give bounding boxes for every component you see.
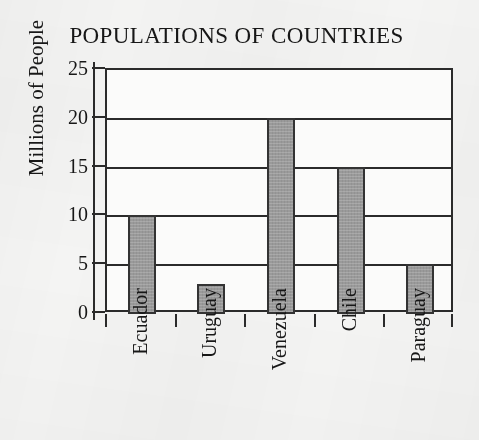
y-axis-tick-label: 25 [44, 58, 88, 78]
x-axis-tick-mark [314, 314, 316, 327]
bar [267, 118, 295, 314]
x-axis-tick-label: Paraguay [406, 288, 430, 396]
x-axis-tick-mark [451, 314, 453, 327]
x-axis-tick-mark [244, 314, 246, 327]
x-axis-tick-mark [175, 314, 177, 327]
x-axis-tick-label: Uruguay [197, 288, 221, 396]
x-axis-category-uruguay: Uruguay [174, 330, 244, 438]
x-axis-category-paraguay: Paraguay [383, 330, 453, 438]
x-axis-category-ecuador: Ecuador [105, 330, 175, 438]
y-axis-tick-label: 0 [44, 302, 88, 322]
y-axis-tick-mark [92, 165, 105, 167]
x-axis-tick-label: Venezuela [267, 288, 291, 396]
x-axis-tick-label: Ecuador [128, 288, 152, 396]
y-axis-tick-mark [92, 67, 105, 69]
x-axis-category-venezuela: Venezuela [244, 330, 314, 438]
x-axis-tick-mark [105, 314, 107, 327]
x-axis-category-chile: Chile [314, 330, 384, 438]
x-axis-tick-mark [383, 314, 385, 327]
y-axis-tick-mark [92, 213, 105, 215]
y-axis-tick-label: 20 [44, 107, 88, 127]
y-axis-tick-label: 10 [44, 204, 88, 224]
plot-area [105, 68, 453, 312]
x-axis-tick-label: Chile [337, 288, 361, 396]
x-axis-label-group: EcuadorUruguayVenezuelaChileParaguay [105, 330, 453, 438]
y-axis-tick-mark [92, 262, 105, 264]
chart-page: POPULATIONS OF COUNTRIES Millions of Peo… [0, 0, 479, 440]
y-axis-tick-mark [92, 116, 105, 118]
y-axis-tick-label: 5 [44, 253, 88, 273]
y-axis-tick-group: 0510152025 [48, 0, 105, 440]
y-axis-tick-mark [92, 311, 105, 313]
y-axis-tick-label: 15 [44, 156, 88, 176]
